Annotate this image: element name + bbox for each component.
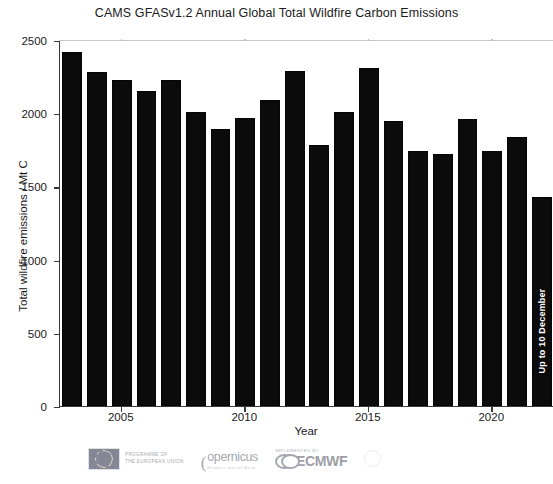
bar	[334, 112, 354, 406]
bar	[507, 137, 527, 406]
eu-flag-icon	[88, 448, 120, 470]
logo-footer: Programme of the European Union ( operni…	[0, 443, 553, 484]
x-tick-label: 2020	[478, 411, 504, 423]
bar	[285, 71, 305, 406]
y-tick-mark	[54, 187, 60, 188]
wildfire-emissions-figure: CAMS GFASv1.2 Annual Global Total Wildfi…	[0, 0, 553, 484]
bar	[211, 129, 231, 406]
ecmwf-logo: Implemented by ECMWF	[275, 448, 347, 469]
bar	[309, 145, 329, 406]
copernicus-wordmark: opernicus	[207, 450, 258, 464]
bar	[260, 100, 280, 406]
bar	[62, 52, 82, 406]
bar	[112, 80, 132, 406]
copernicus-tagline: Europe's eyes on Earth	[207, 466, 258, 470]
copernicus-mark-icon: (	[201, 456, 207, 470]
y-tick-label: 2500	[21, 35, 47, 47]
fourth-logo	[364, 450, 384, 467]
y-tick-mark	[54, 114, 60, 115]
copernicus-logo: ( opernicus Europe's eyes on Earth	[201, 447, 258, 470]
bar	[186, 112, 206, 406]
x-axis-title: Year	[59, 425, 553, 437]
bar	[482, 151, 502, 406]
x-tick-label: 2015	[355, 411, 381, 423]
chart-title: CAMS GFASv1.2 Annual Global Total Wildfi…	[0, 6, 553, 20]
y-axis-title-wrap: Total wildfire emissions / Mt C	[8, 60, 24, 360]
bar	[137, 91, 157, 406]
x-tick-label: 2005	[108, 411, 134, 423]
bar	[408, 151, 428, 406]
ecmwf-main: ECMWF	[275, 453, 347, 469]
bar	[458, 119, 478, 406]
fourth-logo-icon	[364, 450, 381, 467]
bar	[433, 154, 453, 406]
y-tick-mark	[54, 41, 60, 42]
bar	[359, 68, 379, 406]
bar	[161, 80, 181, 406]
bar: Up to 10 December	[532, 197, 552, 406]
eu-logo-text: Programme of the European Union	[125, 452, 184, 465]
ecmwf-wordmark: ECMWF	[296, 453, 347, 469]
eu-logo: Programme of the European Union	[88, 448, 184, 470]
bar-annotation: Up to 10 December	[537, 289, 547, 374]
bar-series: Up to 10 December	[60, 41, 553, 406]
y-tick-mark	[54, 334, 60, 335]
y-tick-label: 0	[41, 401, 47, 413]
bar	[87, 72, 107, 406]
eu-logo-line2: the European Union	[125, 459, 184, 466]
x-tick-label: 2010	[231, 411, 257, 423]
y-tick-mark	[54, 261, 60, 262]
bar	[384, 121, 404, 406]
plot-area: Up to 10 December	[59, 41, 553, 407]
ecmwf-rings-icon	[275, 454, 294, 469]
y-axis-title: Total wildfire emissions / Mt C	[17, 86, 29, 386]
y-tick-label: 500	[28, 328, 47, 340]
logo-row: Programme of the European Union ( operni…	[88, 447, 384, 470]
eu-logo-line1: Programme of	[125, 452, 184, 459]
bar	[235, 118, 255, 406]
